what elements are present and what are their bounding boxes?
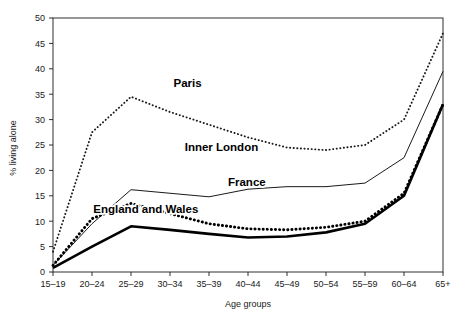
y-axis-title: % living alone [8, 120, 18, 176]
x-tick-label: 35–39 [196, 279, 221, 289]
x-tick-label: 20–24 [79, 279, 104, 289]
y-tick-label: 5 [40, 242, 45, 252]
x-tick-label: 60–64 [391, 279, 416, 289]
y-tick-label: 40 [35, 64, 45, 74]
x-tick-label: 25–29 [118, 279, 143, 289]
x-tick-label: 45–49 [274, 279, 299, 289]
series-label-england-and-wales: England and Wales [93, 203, 198, 215]
y-tick-label: 10 [35, 217, 45, 227]
y-tick-label: 15 [35, 191, 45, 201]
y-tick-label: 0 [40, 267, 45, 277]
y-tick-label: 45 [35, 39, 45, 49]
x-tick-label: 15–19 [40, 279, 65, 289]
series-label-paris: Paris [173, 77, 201, 89]
series-label-inner-london: Inner London [185, 141, 258, 153]
x-tick-label: 50–54 [313, 279, 338, 289]
y-tick-label: 20 [35, 166, 45, 176]
series-label-france: France [228, 176, 266, 188]
y-tick-label: 35 [35, 90, 45, 100]
x-tick-label: 55–59 [352, 279, 377, 289]
y-tick-label: 25 [35, 140, 45, 150]
x-axis-title: Age groups [225, 299, 272, 309]
x-tick-label: 30–34 [157, 279, 182, 289]
chart-figure: 05101520253035404550 15–1920–2425–2930–3… [0, 0, 475, 324]
line-chart: 05101520253035404550 15–1920–2425–2930–3… [0, 0, 475, 324]
x-tick-label: 40–44 [235, 279, 260, 289]
y-tick-label: 50 [35, 13, 45, 23]
x-tick-label: 65+ [435, 279, 450, 289]
y-tick-label: 30 [35, 115, 45, 125]
